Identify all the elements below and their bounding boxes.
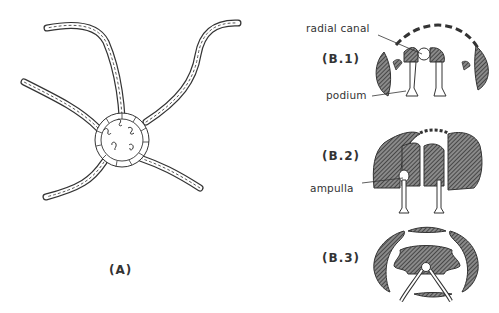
annotation-ampulla: ampulla [310,182,354,194]
panel-label-b1: (B.1) [322,52,360,66]
panel-label-b2: (B.2) [322,149,360,163]
arm-left [24,82,98,128]
cross-section-b1 [372,25,488,96]
arm-lower-right [140,158,200,188]
annotation-podium: podium [326,89,367,101]
brittle-star-drawing [24,23,238,197]
panel-label-a: (A) [109,263,132,277]
figure-canvas [0,0,499,313]
panel-label-b3: (B.3) [322,251,360,265]
arm-lower-left [46,162,104,197]
cross-section-b2 [362,130,482,213]
arm-upper-right [146,23,238,122]
cross-section-b3 [374,227,478,301]
annotation-radial-canal: radial canal [306,22,370,34]
central-disc [95,113,149,167]
